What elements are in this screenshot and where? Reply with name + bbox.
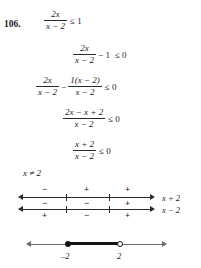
sign-line-2-label: x − 2	[162, 205, 180, 215]
solution-label-left: –2	[61, 251, 70, 261]
quotient-sign-region1: +	[42, 211, 47, 220]
step-2-denominator: x − 2	[73, 55, 96, 65]
step-2-relation: ≤ 0	[112, 50, 127, 60]
sign-line-1-left-arrow	[18, 194, 23, 200]
step-3-numerator-left: 2x	[41, 76, 54, 86]
step-2-operator: − 1	[96, 50, 112, 60]
step-3: 2x x − 2 − 1(x − 2) x − 2 ≤ 0	[36, 76, 116, 97]
sign-line-2-left-arrow	[18, 206, 23, 212]
line2-sign-above-region2: −	[84, 199, 89, 208]
solution-endpoint-open	[117, 241, 123, 247]
step-4-fraction: 2x − x + 2 x − 2	[63, 108, 105, 129]
step-3-numerator-right: 1(x − 2)	[68, 76, 102, 86]
step-5-numerator: x + 2	[73, 140, 96, 150]
sign-line-2-tick-right	[109, 206, 110, 213]
quotient-sign-region2: −	[84, 211, 89, 220]
step-1-denominator: x − 2	[44, 21, 67, 31]
sign-line-1-tick-right	[109, 194, 110, 201]
step-3-relation: ≤ 0	[102, 82, 117, 92]
line1-sign-region3: +	[125, 185, 130, 194]
step-3-denominator-left: x − 2	[36, 87, 59, 97]
sign-line-1-right-arrow	[150, 194, 155, 200]
step-1-fraction: 2x x − 2	[44, 10, 67, 31]
step-4-numerator: 2x − x + 2	[63, 108, 105, 118]
line2-sign-above-region1: −	[42, 199, 47, 208]
line1-sign-region2: +	[84, 185, 89, 194]
step-4: 2x − x + 2 x − 2 ≤ 0	[63, 108, 120, 129]
step-2: 2x x − 2 − 1 ≤ 0	[73, 44, 127, 65]
step-2-numerator: 2x	[78, 44, 91, 54]
step-2-fraction: 2x x − 2	[73, 44, 96, 65]
line1-sign-region1: −	[42, 185, 47, 194]
step-1-relation: ≤ 1	[67, 16, 82, 26]
solution-endpoint-closed	[65, 241, 71, 247]
step-3-denominator-right: x − 2	[73, 87, 96, 97]
textbook-solution-page: 106. 2x x − 2 ≤ 1 2x x − 2 − 1 ≤ 0 2x x …	[0, 0, 201, 268]
solution-number-line: –2 2	[26, 238, 176, 264]
sign-chart: − + + x + 2 − − + x − 2 + − +	[22, 186, 177, 224]
restriction-statement: x ≠ 2	[23, 168, 41, 178]
step-5: x + 2 x − 2 ≤ 0	[73, 140, 111, 161]
step-1-numerator: 2x	[49, 10, 62, 20]
step-5-denominator: x − 2	[73, 151, 96, 161]
step-3-fraction-left: 2x x − 2	[36, 76, 59, 97]
sign-line-1-label: x + 2	[162, 193, 180, 203]
solution-label-right: 2	[117, 251, 121, 261]
step-4-relation: ≤ 0	[105, 114, 120, 124]
step-3-fraction-right: 1(x − 2) x − 2	[68, 76, 102, 97]
quotient-sign-region3: +	[125, 211, 130, 220]
solution-left-arrow	[26, 241, 31, 247]
step-4-denominator: x − 2	[73, 119, 96, 129]
step-1: 2x x − 2 ≤ 1	[44, 10, 82, 31]
line2-sign-above-region3: +	[125, 199, 130, 208]
problem-number: 106.	[4, 19, 21, 29]
solution-right-arrow	[162, 241, 167, 247]
step-5-relation: ≤ 0	[96, 146, 111, 156]
sign-line-2-tick-left	[66, 206, 67, 213]
sign-line-2-right-arrow	[150, 206, 155, 212]
step-3-operator: −	[59, 82, 68, 92]
sign-line-1-tick-left	[66, 194, 67, 201]
solution-interval-segment	[68, 242, 120, 245]
step-5-fraction: x + 2 x − 2	[73, 140, 96, 161]
